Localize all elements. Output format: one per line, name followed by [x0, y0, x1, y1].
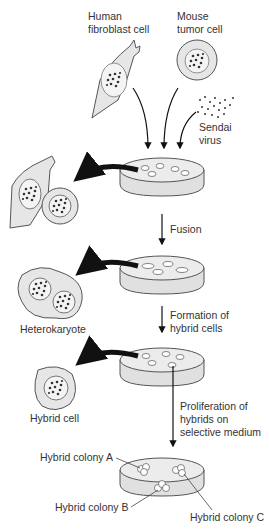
- fusion-label: Fusion: [170, 223, 202, 236]
- human-fibroblast-label: Human fibroblast cell: [88, 10, 149, 36]
- mouse-tumor-label: Mouse tumor cell: [177, 10, 223, 36]
- input-arrows: [133, 88, 196, 148]
- colony-b-label: Hybrid colony B: [55, 501, 129, 514]
- formation-label: Formation of hybrid cells: [170, 309, 229, 335]
- proliferation-label: Proliferation of hybrids on selective me…: [180, 400, 261, 439]
- heterokaryote-label: Heterokaryote: [20, 323, 86, 336]
- petri-dish-mixing: [120, 158, 204, 196]
- human-fibroblast-cell-icon: [92, 40, 140, 118]
- sendai-virus-icon: [197, 96, 234, 118]
- fusing-cells-icon: [10, 156, 78, 228]
- sendai-virus-label: Sendai virus: [199, 121, 232, 147]
- colony-a-label: Hybrid colony A: [40, 451, 113, 464]
- colony-c-label: Hybrid colony C: [190, 511, 264, 524]
- diagram-canvas: [0, 0, 269, 529]
- petri-dish-colonies: [120, 458, 204, 496]
- petri-dish-fusion: [120, 256, 204, 294]
- mouse-tumor-cell-icon: [177, 40, 217, 80]
- heterokaryote-icon: [18, 268, 82, 319]
- hybrid-cell-label: Hybrid cell: [30, 412, 79, 425]
- hybrid-cell-icon: [35, 367, 76, 410]
